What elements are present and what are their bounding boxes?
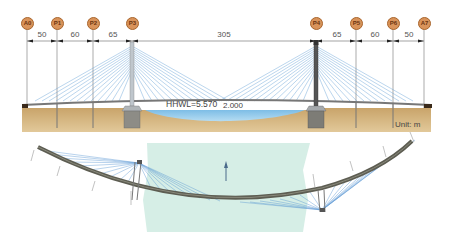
unit-label: Unit: m	[395, 120, 420, 129]
span-label: 50	[405, 30, 414, 39]
pier-badge-p4: P4	[310, 17, 323, 30]
pier-badge-p2: P2	[87, 17, 100, 30]
span-label: 65	[333, 30, 342, 39]
pier-badge-a0: A0	[21, 17, 34, 30]
plan-view	[31, 132, 415, 232]
pier-badge-p1: P1	[51, 17, 64, 30]
pier-badge-p6: P6	[387, 17, 400, 30]
pier-badge-p5: P5	[350, 17, 363, 30]
elevation-view	[22, 28, 432, 132]
cable-stayed-bridge-diagram: A0 P1 P2 P3 P4 P5 P6 A7 50 60 65 305 65 …	[0, 0, 457, 242]
pier-badge-p3: P3	[126, 17, 139, 30]
span-label: 65	[109, 30, 118, 39]
water-depth-label: 2.000	[223, 101, 243, 110]
span-label: 60	[371, 30, 380, 39]
span-label: 305	[217, 30, 230, 39]
pier-badge-a7: A7	[418, 17, 431, 30]
span-label: 60	[71, 30, 80, 39]
span-label: 50	[38, 30, 47, 39]
water-level-label: HHWL=5.570	[166, 99, 217, 109]
